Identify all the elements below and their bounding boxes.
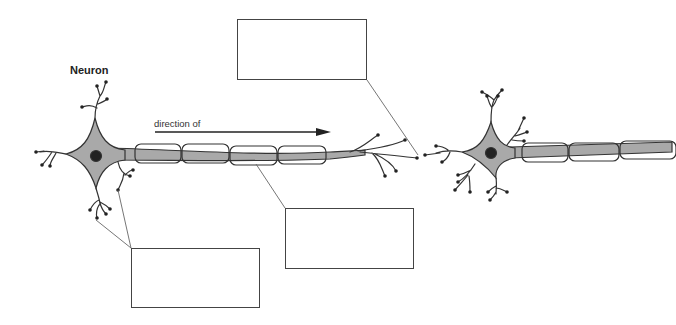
leader-middle: [256, 164, 285, 208]
axon-1: [110, 148, 365, 161]
label-box-top[interactable]: [237, 19, 367, 80]
label-box-middle[interactable]: [285, 208, 414, 269]
axon-2: [510, 142, 672, 158]
diagram-title: Neuron: [70, 64, 109, 76]
label-box-bottom-left[interactable]: [131, 248, 260, 308]
leader-top: [367, 80, 418, 155]
arrow-label: direction of: [154, 118, 200, 129]
nucleus-2: [486, 148, 497, 159]
neuron-2: [423, 88, 676, 202]
nucleus-1: [91, 151, 102, 162]
dendrites-2: [425, 90, 527, 200]
direction-arrow: [155, 128, 331, 136]
neuron-1: [34, 80, 419, 220]
dendrite-tips-2: [423, 88, 529, 202]
